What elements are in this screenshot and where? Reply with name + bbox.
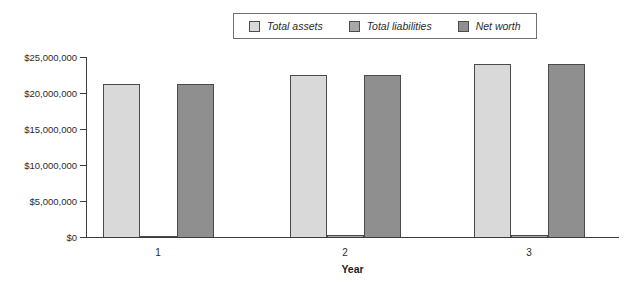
x-axis-category-label: 2 [330, 247, 360, 258]
bar-total-liabilities-year-3 [511, 235, 548, 237]
bar-total-assets-year-3 [474, 64, 511, 237]
bar-net-worth-year-3 [548, 64, 585, 237]
y-axis-line [86, 57, 87, 238]
y-axis-tick-label: $0 [0, 232, 77, 243]
y-axis-tick-label: $25,000,000 [0, 52, 77, 63]
y-axis-tick [80, 57, 86, 58]
bar-group-year-3 [474, 57, 585, 237]
y-axis-tick [80, 165, 86, 166]
bar-chart: Year $25,000,000$20,000,000$15,000,000$1… [0, 0, 631, 289]
bar-group-year-2 [290, 57, 401, 237]
bar-total-assets-year-2 [290, 75, 327, 237]
y-axis-tick [80, 201, 86, 202]
y-axis-tick [80, 129, 86, 130]
y-axis-tick-label: $5,000,000 [0, 196, 77, 207]
x-axis-title: Year [86, 263, 619, 275]
y-axis-tick-label: $10,000,000 [0, 160, 77, 171]
x-axis-category-label: 1 [143, 247, 173, 258]
bar-net-worth-year-2 [364, 75, 401, 237]
y-axis-tick-label: $15,000,000 [0, 124, 77, 135]
y-axis-tick [80, 237, 86, 238]
bar-group-year-1 [103, 57, 214, 237]
bar-net-worth-year-1 [177, 84, 214, 237]
bar-total-liabilities-year-2 [327, 235, 364, 237]
x-axis-line [86, 237, 619, 238]
bar-total-assets-year-1 [103, 84, 140, 237]
bar-total-liabilities-year-1 [140, 236, 177, 237]
x-axis-category-label: 3 [514, 247, 544, 258]
y-axis-tick [80, 93, 86, 94]
chart-page: Total assetsTotal liabilitiesNet worth Y… [0, 0, 631, 289]
y-axis-tick-label: $20,000,000 [0, 88, 77, 99]
